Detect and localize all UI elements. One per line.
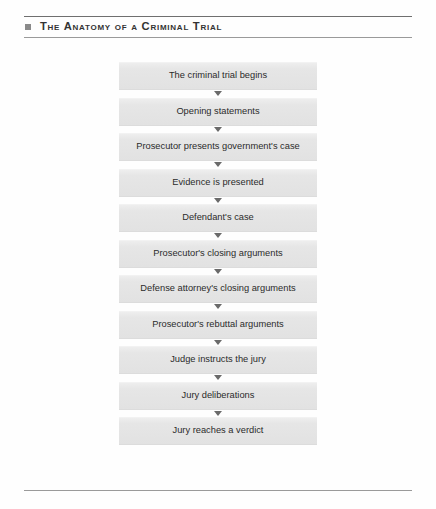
flow-node: Prosecutor's rebuttal arguments [119, 311, 317, 339]
page-title-row: The Anatomy of a Criminal Trial [24, 17, 412, 37]
header: The Anatomy of a Criminal Trial [24, 16, 412, 38]
triangle-down-icon [214, 411, 222, 416]
footer-rule [24, 490, 412, 491]
flow-node-label: Evidence is presented [172, 178, 263, 187]
flow-node-label: The criminal trial begins [169, 71, 267, 80]
square-bullet-icon [25, 24, 31, 30]
flow-node: The criminal trial begins [119, 62, 317, 90]
triangle-down-icon [214, 340, 222, 345]
triangle-down-icon [214, 127, 222, 132]
flow-connector [119, 232, 317, 240]
flow-node: Defendant's case [119, 204, 317, 232]
flow-node: Prosecutor presents government's case [119, 133, 317, 161]
flow-node-label: Prosecutor presents government's case [136, 142, 300, 151]
flow-node-label: Opening statements [176, 107, 259, 116]
triangle-down-icon [214, 304, 222, 309]
flow-connector [119, 126, 317, 134]
flow-node: Judge instructs the jury [119, 346, 317, 374]
flow-node: Prosecutor's closing arguments [119, 240, 317, 268]
triangle-down-icon [214, 233, 222, 238]
flow-node-label: Jury reaches a verdict [173, 426, 264, 435]
flow-node: Jury reaches a verdict [119, 417, 317, 445]
flow-connector [119, 339, 317, 347]
flow-node-label: Judge instructs the jury [170, 355, 266, 364]
footer [24, 490, 412, 491]
flow-node: Jury deliberations [119, 382, 317, 410]
flow-connector [119, 161, 317, 169]
flow-node-label: Defense attorney's closing arguments [140, 284, 295, 293]
header-rule-bottom [24, 37, 412, 38]
flow-node: Evidence is presented [119, 169, 317, 197]
page: The Anatomy of a Criminal Trial The crim… [0, 0, 436, 509]
flow-node-label: Defendant's case [182, 213, 254, 222]
flow-node-label: Jury deliberations [182, 391, 255, 400]
flow-connector [119, 197, 317, 205]
triangle-down-icon [214, 375, 222, 380]
criminal-trial-flowchart: The criminal trial begins Opening statem… [119, 62, 317, 445]
flow-connector [119, 268, 317, 276]
flow-node: Opening statements [119, 98, 317, 126]
triangle-down-icon [214, 198, 222, 203]
flow-connector [119, 303, 317, 311]
flow-connector [119, 90, 317, 98]
flow-node-label: Prosecutor's closing arguments [153, 249, 282, 258]
flow-connector [119, 410, 317, 418]
triangle-down-icon [214, 162, 222, 167]
flow-connector [119, 374, 317, 382]
page-title: The Anatomy of a Criminal Trial [40, 21, 222, 32]
triangle-down-icon [214, 91, 222, 96]
flow-node-label: Prosecutor's rebuttal arguments [152, 320, 283, 329]
triangle-down-icon [214, 269, 222, 274]
flow-node: Defense attorney's closing arguments [119, 275, 317, 303]
